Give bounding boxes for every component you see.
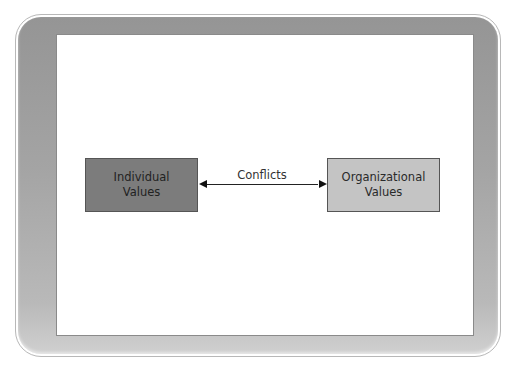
edge-label: Conflicts <box>220 168 304 182</box>
arrowhead-right-icon <box>319 180 327 188</box>
node-label-line1: Organizational <box>342 170 426 185</box>
node-label-line2: Values <box>342 185 426 200</box>
individual-values-node: Individual Values <box>85 158 198 212</box>
node-label-line1: Individual <box>113 170 169 185</box>
node-label-line2: Values <box>113 185 169 200</box>
organizational-values-node: Organizational Values <box>327 158 440 212</box>
arrowhead-left-icon <box>199 180 207 188</box>
conflict-connector-line <box>206 184 318 185</box>
